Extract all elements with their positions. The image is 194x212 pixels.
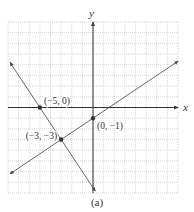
points: (−5, 0)(0, −1)(−3, −3) [26, 96, 123, 142]
point-marker [38, 105, 42, 109]
point-label: (−3, −3) [26, 131, 57, 142]
y-axis-label: y [88, 7, 94, 19]
figure-caption: (a) [0, 196, 194, 208]
point-label: (0, −1) [97, 121, 123, 132]
point-marker [91, 116, 95, 120]
coordinate-plane: (−5, 0)(0, −1)(−3, −3) x y [0, 0, 194, 212]
x-axis-label: x [182, 101, 188, 113]
point-marker [59, 137, 63, 141]
axes [8, 22, 178, 193]
point-label: (−5, 0) [44, 96, 70, 107]
